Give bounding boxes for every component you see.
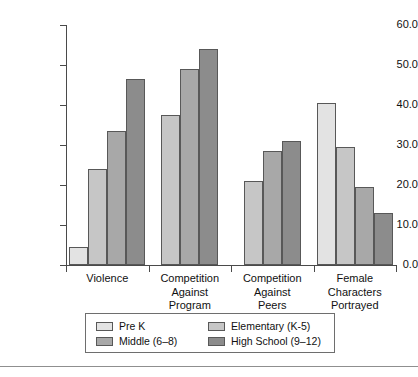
legend-label: High School (9–12) — [231, 336, 321, 347]
bar — [161, 115, 180, 265]
bar — [374, 213, 393, 265]
x-axis-separator — [314, 265, 315, 272]
x-axis-separator — [66, 265, 67, 272]
plot-area — [66, 25, 396, 265]
category-label-line: Portrayed — [314, 299, 397, 313]
x-axis-category-label: Violence — [66, 272, 149, 286]
legend-grid: Pre KElementary (K-5)Middle (6–8)High Sc… — [96, 319, 328, 349]
category-label-line: Competition — [231, 272, 314, 286]
bar — [263, 151, 282, 265]
legend-item: Elementary (K-5) — [208, 321, 328, 332]
legend-swatch-icon — [208, 322, 225, 331]
legend-swatch-icon — [96, 337, 113, 346]
category-label-line: Characters — [314, 286, 397, 300]
bar — [199, 49, 218, 265]
legend-label: Middle (6–8) — [119, 336, 177, 347]
bar — [107, 131, 126, 265]
legend-swatch-icon — [96, 322, 113, 331]
bar — [88, 169, 107, 265]
bar — [126, 79, 145, 265]
category-label-line: Program — [149, 299, 232, 313]
legend-item: Pre K — [96, 321, 208, 332]
legend-label: Pre K — [119, 321, 145, 332]
bar-group — [231, 25, 314, 265]
x-axis-category-label: CompetitionAgainstProgram — [149, 272, 232, 313]
bar — [317, 103, 336, 265]
bar-group — [314, 25, 397, 265]
category-label-line: Competition — [149, 272, 232, 286]
bar — [282, 141, 301, 265]
chart-legend: Pre KElementary (K-5)Middle (6–8)High Sc… — [85, 313, 335, 353]
category-label-line: Violence — [66, 272, 149, 286]
bar-chart-figure: 60.050.040.030.020.010.00.0 ViolenceComp… — [0, 0, 418, 377]
x-axis-separator — [149, 265, 150, 272]
legend-swatch-icon — [208, 337, 225, 346]
legend-item: Middle (6–8) — [96, 336, 208, 347]
category-label-line: Peers — [231, 299, 314, 313]
category-label-line: Female — [314, 272, 397, 286]
x-axis-separator — [231, 265, 232, 272]
legend-label: Elementary (K-5) — [231, 321, 310, 332]
bar — [180, 69, 199, 265]
legend-item: High School (9–12) — [208, 336, 328, 347]
bar — [244, 181, 263, 265]
bar — [336, 147, 355, 265]
bar-group — [149, 25, 232, 265]
bar — [69, 247, 88, 265]
category-label-line: Against — [231, 286, 314, 300]
x-axis-separator — [396, 265, 397, 272]
x-axis-category-label: FemaleCharactersPortrayed — [314, 272, 397, 313]
category-label-line: Against — [149, 286, 232, 300]
page-bottom-rule — [0, 366, 418, 367]
bar — [355, 187, 374, 265]
x-axis-category-label: CompetitionAgainstPeers — [231, 272, 314, 313]
bar-group — [66, 25, 149, 265]
